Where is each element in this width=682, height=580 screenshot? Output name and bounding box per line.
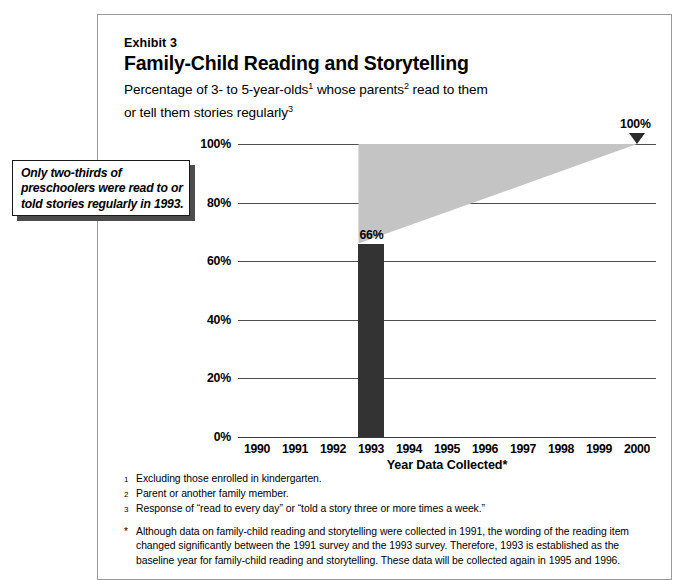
footnote-marker: 1 bbox=[124, 472, 136, 487]
subtitle-footnote-ref-3: 3 bbox=[288, 104, 293, 114]
y-axis-tick-label: 100% bbox=[200, 138, 231, 150]
callout-box: Only two-thirds of preschoolers were rea… bbox=[12, 160, 190, 216]
footnote-marker: 2 bbox=[124, 487, 136, 502]
y-axis-tick-label: 40% bbox=[207, 314, 231, 326]
down-triangle-icon bbox=[629, 133, 645, 144]
y-axis-tick-label: 20% bbox=[207, 372, 231, 384]
footnote-text: Response of “read to every day” or “told… bbox=[136, 502, 485, 517]
callout-text: Only two-thirds of preschoolers were rea… bbox=[21, 166, 187, 212]
target-marker-label: 100% bbox=[620, 117, 651, 131]
chart-header: Exhibit 3 Family-Child Reading and Story… bbox=[124, 36, 574, 122]
page-title: Family-Child Reading and Storytelling bbox=[124, 52, 574, 75]
y-axis-tick-label: 60% bbox=[207, 255, 231, 267]
bar-value-label: 66% bbox=[359, 228, 383, 242]
chart-subtitle: Percentage of 3- to 5-year-olds1 whose p… bbox=[124, 77, 574, 122]
goal-wedge bbox=[238, 144, 656, 437]
subtitle-part-2: whose parents bbox=[313, 82, 404, 97]
asterisk-note-marker: * bbox=[124, 525, 136, 568]
footnote-item: 3Response of “read to every day” or “tol… bbox=[124, 502, 644, 517]
footnote-text: Excluding those enrolled in kindergarten… bbox=[136, 472, 322, 487]
footnote-item: 1Excluding those enrolled in kindergarte… bbox=[124, 472, 644, 487]
x-axis-tick-2000: 2000 bbox=[615, 442, 659, 456]
footnote-text: Parent or another family member. bbox=[136, 487, 289, 502]
exhibit-label: Exhibit 3 bbox=[124, 36, 574, 51]
subtitle-part-1: Percentage of 3- to 5-year-olds bbox=[124, 82, 308, 97]
callout-annotation: Only two-thirds of preschoolers were rea… bbox=[12, 160, 190, 216]
y-axis-tick-label: 0% bbox=[214, 431, 231, 443]
asterisk-note-text: Although data on family-child reading an… bbox=[136, 525, 652, 568]
y-axis-tick-label: 80% bbox=[207, 197, 231, 209]
chart-plot-area: 0%20%40%60%80%100% 66% 100% 199019911992… bbox=[238, 144, 656, 437]
footnotes-list: 1Excluding those enrolled in kindergarte… bbox=[124, 472, 644, 518]
footnote-marker: 3 bbox=[124, 502, 136, 517]
footnote-item: 2Parent or another family member. bbox=[124, 487, 644, 502]
subtitle-part-4: or tell them stories regularly bbox=[124, 105, 288, 120]
asterisk-note: * Although data on family-child reading … bbox=[124, 525, 652, 568]
x-axis-title: Year Data Collected* bbox=[238, 458, 656, 472]
x-axis-line bbox=[238, 437, 656, 438]
subtitle-part-3: read to them bbox=[409, 82, 488, 97]
bar-1993 bbox=[358, 244, 383, 437]
